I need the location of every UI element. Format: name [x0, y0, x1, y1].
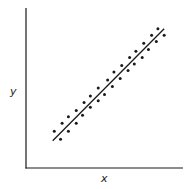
data-point [67, 115, 70, 118]
data-point [147, 48, 150, 51]
data-point [67, 130, 70, 133]
data-point [134, 50, 137, 53]
data-point [119, 77, 122, 80]
data-point [150, 34, 153, 37]
data-point [75, 122, 78, 125]
data-point [141, 56, 144, 59]
data-point [103, 93, 106, 96]
data-point [89, 95, 92, 98]
data-point [111, 85, 114, 88]
data-point [163, 34, 166, 37]
data-point [156, 27, 159, 30]
trend-line [53, 29, 164, 141]
data-point [97, 99, 100, 102]
data-point [97, 87, 100, 90]
data-point [89, 106, 92, 109]
x-axis-label: x [101, 172, 108, 185]
scatter-plot [0, 0, 192, 189]
data-point [133, 63, 136, 66]
data-point [53, 130, 56, 133]
data-point [75, 109, 78, 112]
data-point [127, 69, 130, 72]
data-point [120, 64, 123, 67]
data-point [83, 101, 86, 104]
data-point [112, 71, 115, 74]
data-point [106, 79, 109, 82]
data-point [59, 138, 62, 141]
y-axis-label: y [10, 85, 17, 98]
data-point [81, 114, 84, 117]
data-point [128, 56, 131, 59]
data-point [155, 40, 158, 43]
data-point [61, 122, 64, 125]
data-point [142, 42, 145, 45]
